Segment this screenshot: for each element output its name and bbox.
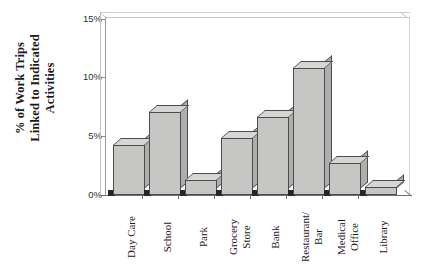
- bar-medical-office: [329, 163, 361, 195]
- bar-chart: % of Work Trips Linked to Indicated Acti…: [0, 0, 433, 277]
- x-label-grocery-store: Grocery Store: [227, 199, 243, 275]
- x-label-line: Bank: [269, 225, 282, 248]
- x-label-school: School: [161, 199, 177, 275]
- x-label-line: Bar: [312, 229, 325, 245]
- x-label-day-care: Day Care: [125, 199, 141, 275]
- bar-day-care: [113, 145, 145, 195]
- bar-front-face: [149, 112, 181, 195]
- bar-front-face: [329, 163, 361, 195]
- bar-front-face: [185, 180, 217, 195]
- bar-series: [105, 17, 410, 195]
- x-label-medical-office: Medical Office: [335, 199, 351, 275]
- x-label-line: Restaurant/: [299, 212, 312, 262]
- y-tick-label-10: 10%: [68, 72, 102, 82]
- y-tick-label-0: 0%: [68, 190, 102, 200]
- bar-front-face: [257, 117, 289, 195]
- x-axis-labels: Day Care School Park Grocery Store Bank: [105, 199, 410, 277]
- y-axis-title-line-3: Activities: [42, 63, 57, 114]
- bar-bank: [257, 117, 289, 195]
- x-label-line: Library: [377, 221, 390, 254]
- plot-back-wall-left-edge: [100, 12, 101, 196]
- x-label-line: Medical: [335, 219, 348, 255]
- y-axis-title: % of Work Trips Linked to Indicated Acti…: [5, 0, 65, 181]
- bar-restaurant-bar: [293, 68, 325, 195]
- x-label-line: Office: [348, 223, 361, 251]
- bar-library: [365, 187, 397, 195]
- x-label-line: Store: [240, 225, 253, 248]
- plot-back-wall-top-edge: [100, 12, 410, 13]
- bar-side-face: [181, 99, 188, 188]
- y-axis-ticks: 15% 10% 5% 0%: [66, 0, 102, 277]
- x-label-library: Library: [377, 199, 393, 275]
- bar-grocery-store: [221, 138, 253, 195]
- x-label-park: Park: [197, 199, 213, 275]
- x-label-bank: Bank: [269, 199, 285, 275]
- y-tick-label-5: 5%: [68, 131, 102, 141]
- bar-front-face: [365, 187, 397, 195]
- bar-school: [149, 112, 181, 195]
- y-tick-label-15: 15%: [68, 14, 102, 24]
- y-axis-title-line-1: % of Work Trips: [12, 42, 27, 134]
- bar-front-face: [113, 145, 145, 195]
- x-label-line: Grocery: [227, 219, 240, 255]
- bar-front-face: [293, 68, 325, 195]
- bar-front-face: [221, 138, 253, 195]
- x-label-restaurant-bar: Restaurant/ Bar: [299, 199, 315, 275]
- x-label-line: Park: [197, 227, 210, 247]
- x-label-line: Day Care: [125, 216, 138, 258]
- bar-park: [185, 180, 217, 195]
- x-label-line: School: [161, 222, 174, 253]
- y-axis-title-line-2: Linked to Indicated: [27, 34, 42, 141]
